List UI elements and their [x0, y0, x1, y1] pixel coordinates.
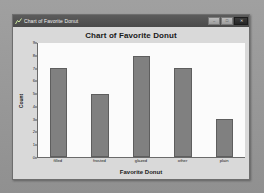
- chart-title: Chart of Favorite Donut: [17, 31, 245, 41]
- desktop-background: Chart of Favorite Donut – □ ✕ Chart of F…: [0, 0, 264, 193]
- y-axis-label: Count: [18, 93, 24, 107]
- close-button[interactable]: ✕: [234, 17, 248, 25]
- x-axis-tick-label: frosted: [79, 159, 121, 168]
- y-axis-ticks: 0123456789: [25, 43, 37, 158]
- maximize-button[interactable]: □: [221, 17, 233, 25]
- bar[interactable]: [216, 119, 233, 157]
- window-title: Chart of Favorite Donut: [24, 18, 208, 25]
- window-body: Chart of Favorite Donut Count 0123456789…: [13, 27, 249, 179]
- window-titlebar[interactable]: Chart of Favorite Donut – □ ✕: [13, 15, 249, 27]
- bar-slot: [38, 43, 79, 157]
- x-axis-tick-label: filled: [37, 159, 79, 168]
- bar[interactable]: [50, 68, 67, 157]
- x-axis-tick-label: glazed: [120, 159, 162, 168]
- bar-slot: [162, 43, 203, 157]
- chart-window: Chart of Favorite Donut – □ ✕ Chart of F…: [12, 14, 250, 180]
- bar[interactable]: [133, 56, 150, 157]
- window-controls: – □ ✕: [208, 17, 248, 25]
- plot-area: [37, 43, 245, 158]
- x-axis-label: Favorite Donut: [120, 168, 162, 176]
- y-axis-label-container: Count: [17, 43, 25, 158]
- x-axis-ticks: filledfrostedglazedotherplain: [37, 158, 245, 168]
- bars-container: [38, 43, 245, 157]
- bar[interactable]: [91, 94, 108, 157]
- minimize-button[interactable]: –: [208, 17, 220, 25]
- chart-area: Count 0123456789 filledfrostedglazedothe…: [17, 43, 245, 176]
- bar[interactable]: [174, 68, 191, 157]
- bar-slot: [204, 43, 245, 157]
- bar-slot: [121, 43, 162, 157]
- x-axis-tick-label: plain: [203, 159, 245, 168]
- chart-icon: [15, 18, 22, 25]
- x-axis-label-container: Favorite Donut: [37, 168, 245, 176]
- x-axis-tick-label: other: [162, 159, 204, 168]
- bar-slot: [79, 43, 120, 157]
